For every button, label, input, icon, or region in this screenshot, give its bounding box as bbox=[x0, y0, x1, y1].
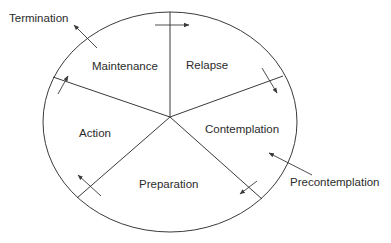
stage-label-action: Action bbox=[79, 128, 111, 140]
arrow-relapse-to-contemplation-icon bbox=[262, 68, 277, 93]
segment-dividers bbox=[53, 12, 283, 199]
divider-upper-right bbox=[170, 76, 283, 117]
cycle-graphic bbox=[0, 0, 391, 243]
arrow-to-termination-icon bbox=[74, 25, 97, 48]
stage-label-preparation: Preparation bbox=[139, 179, 198, 191]
arrow-preparation-to-action-icon bbox=[78, 175, 101, 196]
divider-upper-left bbox=[53, 77, 170, 117]
stage-label-termination: Termination bbox=[9, 13, 68, 25]
stage-label-precontemplation: Precontemplation bbox=[290, 177, 380, 189]
stage-label-contemplation: Contemplation bbox=[205, 124, 279, 136]
stage-label-maintenance: Maintenance bbox=[92, 61, 158, 73]
stage-label-relapse: Relapse bbox=[186, 60, 228, 72]
stages-of-change-diagram: Termination Maintenance Relapse Action C… bbox=[0, 0, 391, 243]
